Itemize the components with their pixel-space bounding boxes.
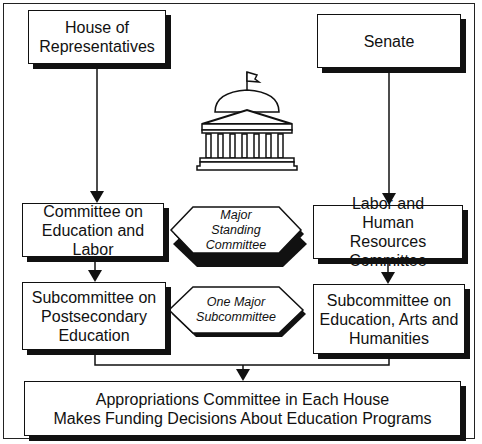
standing-committee-label: Major Standing Committee — [180, 207, 292, 253]
house-committee-box: Committee on Education and Labor — [22, 203, 164, 257]
senate-committee-box: Labor and Human Resources Committee — [313, 205, 463, 259]
house-label: House of Representatives — [29, 18, 165, 56]
capitol-building-icon — [195, 66, 305, 178]
appropriations-line1: Appropriations Committee in Each House — [96, 390, 389, 409]
senate-label: Senate — [364, 32, 415, 51]
house-committee-label: Committee on Education and Labor — [23, 202, 163, 259]
appropriations-box: Appropriations Committee in Each House M… — [24, 381, 461, 436]
senate-subcommittee-box: Subcommittee on Education, Arts and Huma… — [313, 284, 465, 354]
appropriations-line2: Makes Funding Decisions About Education … — [54, 409, 432, 428]
senate-committee-label: Labor and Human Resources Committee — [314, 194, 462, 270]
one-major-subcommittee-label: One Major Subcommittee — [180, 287, 292, 333]
house-subcommittee-box: Subcommittee on Postsecondary Education — [22, 282, 166, 350]
house-subcommittee-label: Subcommittee on Postsecondary Education — [23, 288, 165, 345]
senate-box: Senate — [317, 14, 461, 68]
senate-subcommittee-label: Subcommittee on Education, Arts and Huma… — [314, 291, 464, 348]
house-box: House of Representatives — [28, 10, 166, 64]
